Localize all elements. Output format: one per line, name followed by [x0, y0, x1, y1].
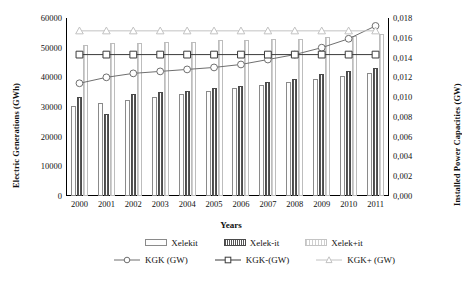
x-axis-ticks: 2000200120022003200420052006200720082009…	[66, 199, 389, 213]
x-tick-label: 2009	[308, 199, 335, 213]
y-tick-label-left: 50000	[18, 44, 62, 53]
marker-circle	[157, 68, 164, 75]
y-tick-label-right: 0,004	[393, 152, 412, 161]
x-tick-label: 2002	[120, 199, 147, 213]
marker-circle	[184, 66, 191, 73]
marker-circle	[318, 44, 325, 51]
marker-circle	[130, 70, 137, 77]
marker-circle	[345, 35, 352, 42]
x-tick-label: 2003	[147, 199, 174, 213]
y-tick-label-left: 0	[18, 192, 62, 201]
marker-square	[238, 51, 245, 58]
legend-label: KGK-(GW)	[246, 255, 289, 265]
legend-label: KGK+ (GW)	[347, 255, 395, 265]
x-tick-label: 2007	[254, 199, 281, 213]
marker-square	[157, 51, 164, 58]
y-tick-label-right: 0,016	[393, 34, 412, 43]
marker-circle	[238, 61, 245, 68]
dark-hatch-swatch	[224, 239, 246, 246]
chart-root: Electric Generations (GWh) Installed Pow…	[0, 0, 462, 285]
legend-label: Xelek-it	[250, 238, 280, 248]
y-tick-label-right: 0,006	[393, 133, 412, 142]
x-tick-label: 2001	[93, 199, 120, 213]
marker-square	[345, 51, 352, 58]
circle-marker	[113, 255, 141, 265]
marker-square	[184, 51, 191, 58]
y-axis-right-ticks: 0,0000,0020,0040,0060,0080,0100,0120,014…	[393, 18, 433, 196]
x-tick-label: 2010	[335, 199, 362, 213]
y-tick-label-right: 0,014	[393, 54, 412, 63]
y-tick-label-right: 0,008	[393, 113, 412, 122]
y-tick-label-left: 40000	[18, 73, 62, 82]
legend-item-xelek-it[interactable]: Xelek-it	[224, 238, 280, 248]
legend-item-kgk-gw-[interactable]: KGK+ (GW)	[315, 255, 395, 265]
marker-square	[372, 51, 379, 58]
legend-item-kgk-gw-[interactable]: KGK-(GW)	[214, 255, 289, 265]
marker-square	[130, 51, 137, 58]
marker-square	[211, 51, 218, 58]
marker-square	[264, 51, 271, 58]
speckled-swatch	[145, 239, 167, 246]
legend-label: KGK (GW)	[145, 255, 188, 265]
x-tick-label: 2006	[228, 199, 255, 213]
legend-item-xelek-it[interactable]: Xelek+it	[305, 238, 363, 248]
y-tick-label-right: 0,018	[393, 14, 412, 23]
y-tick-label-left: 60000	[18, 14, 62, 23]
legend-item-xelekit[interactable]: Xelekit	[145, 238, 198, 248]
x-tick-label: 2008	[281, 199, 308, 213]
plot-area	[66, 18, 389, 196]
y-tick-label-right: 0,000	[393, 192, 412, 201]
marker-circle	[103, 74, 110, 81]
marker-square	[76, 51, 83, 58]
marker-square	[103, 51, 110, 58]
y-tick-label-left: 20000	[18, 133, 62, 142]
x-axis-title: Years	[0, 220, 462, 230]
legend-row-lines: KGK (GW)KGK-(GW)KGK+ (GW)	[66, 251, 442, 268]
x-tick-label: 2011	[362, 199, 389, 213]
y-axis-left-ticks: 0100002000030000400005000060000	[18, 18, 62, 196]
light-hatch-swatch	[305, 239, 327, 246]
y-tick-label-right: 0,012	[393, 73, 412, 82]
legend-label: Xelekit	[171, 238, 198, 248]
y-tick-label-right: 0,002	[393, 172, 412, 181]
y-axis-right-title: Installed Power Capacities (GW)	[452, 83, 462, 206]
y-tick-label-left: 30000	[18, 103, 62, 112]
legend-label: Xelek+it	[331, 238, 363, 248]
triangle-marker	[315, 255, 343, 265]
legend-row-bars: XelekitXelek-itXelek+it	[66, 234, 442, 251]
chart-legend: XelekitXelek-itXelek+it KGK (GW)KGK-(GW)…	[66, 234, 442, 268]
x-tick-label: 2005	[201, 199, 228, 213]
square-marker	[214, 255, 242, 265]
marker-circle	[211, 64, 218, 71]
line-series-container	[66, 18, 389, 196]
marker-square	[318, 51, 325, 58]
x-tick-label: 2000	[66, 199, 93, 213]
marker-square	[291, 51, 298, 58]
marker-circle	[76, 80, 83, 87]
legend-item-kgk-gw-[interactable]: KGK (GW)	[113, 255, 188, 265]
x-tick-label: 2004	[174, 199, 201, 213]
y-tick-label-right: 0,010	[393, 93, 412, 102]
y-tick-label-left: 10000	[18, 162, 62, 171]
